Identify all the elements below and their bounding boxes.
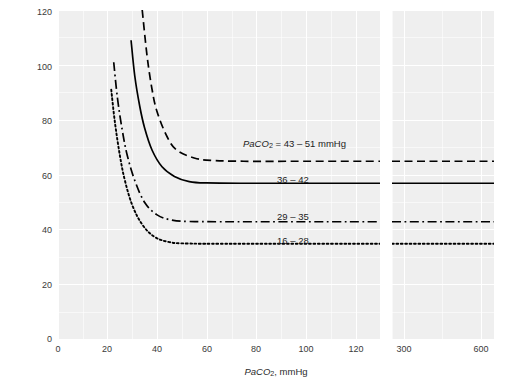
x-tick-label-300: 300 — [389, 344, 419, 354]
series-label-16-28: 16 – 28 — [277, 235, 309, 246]
x-tick-label-20: 20 — [92, 344, 122, 354]
x-tick-label-120: 120 — [341, 344, 371, 354]
series-label-43-51: PaCO2 = 43 – 51 mmHg — [243, 138, 346, 150]
x-tick-label-60: 60 — [192, 344, 222, 354]
y-tick-label-20: 20 — [26, 280, 52, 290]
y-tick-label-80: 80 — [26, 116, 52, 126]
y-tick-label-60: 60 — [26, 171, 52, 181]
series-label-italic: PaCO — [243, 138, 269, 149]
y-tick-label-120: 120 — [26, 7, 52, 17]
x-axis-title-rest: , mmHg — [274, 366, 307, 377]
curves-extended — [392, 10, 494, 340]
x-tick-label-80: 80 — [241, 344, 271, 354]
x-tick-label-0: 0 — [43, 344, 73, 354]
x-axis-title: PaCO2, mmHg — [58, 366, 494, 378]
chart-figure: Cerebral Blood Flow, ml/min/100 g 0 20 4… — [0, 0, 516, 391]
series-label-36-42: 36 – 42 — [277, 174, 309, 185]
series-label-29-35: 29 – 35 — [277, 211, 309, 222]
y-tick-label-0: 0 — [26, 334, 52, 344]
plot-panel-extended — [392, 10, 494, 340]
x-tick-label-600: 600 — [466, 344, 496, 354]
y-tick-label-40: 40 — [26, 225, 52, 235]
x-tick-label-100: 100 — [291, 344, 321, 354]
curves-main — [58, 10, 380, 340]
x-tick-label-40: 40 — [142, 344, 172, 354]
y-tick-label-100: 100 — [26, 62, 52, 72]
plot-panel-main — [58, 10, 380, 340]
x-axis-title-italic: PaCO — [244, 366, 270, 377]
series-line-4 — [111, 90, 380, 244]
series-label-rest: = 43 – 51 mmHg — [273, 138, 346, 149]
